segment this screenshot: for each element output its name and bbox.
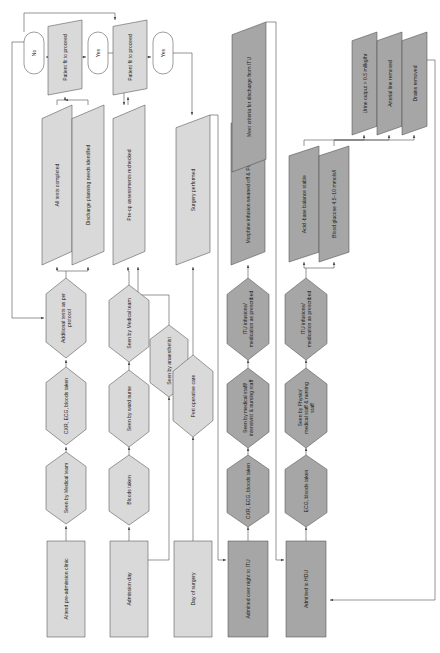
- flowchart-svg: Attend pre-admission clinicSeen by Medic…: [0, 0, 440, 653]
- node-label: Seen by ward nurse: [126, 386, 132, 431]
- flow-node[interactable]: Seen by Medical team: [46, 452, 86, 524]
- node-label: ECG, bloods taken: [303, 469, 309, 512]
- flow-node[interactable]: Attend pre-admission clinic: [47, 541, 85, 637]
- flow-node[interactable]: Seen by Physio/medical staff & nursingst…: [285, 368, 327, 448]
- flow-node[interactable]: Admitted to HDU: [286, 541, 326, 637]
- node-label: Drains removed: [412, 65, 418, 101]
- flow-node[interactable]: Seen by Medical team: [109, 285, 149, 362]
- node-layer: Attend pre-admission clinicSeen by Medic…: [24, 20, 427, 637]
- connector: [12, 42, 44, 318]
- flow-node[interactable]: Peri operative care: [173, 355, 213, 437]
- node-label: CXR, ECG, bloods taken: [63, 378, 69, 435]
- node-label: Seen by medical staff/intensivist & nurs…: [242, 379, 254, 436]
- node-label: Pre-op assessments rechecked: [126, 149, 132, 221]
- node-label: Acid -base balance stable: [301, 175, 307, 233]
- connector: [57, 97, 65, 105]
- connector: [65, 100, 88, 105]
- flow-node[interactable]: Pre-op assessments rechecked: [113, 105, 145, 265]
- flow-node[interactable]: CXR, ECG, bloods taken: [46, 367, 86, 445]
- flow-node[interactable]: ITU infusions/medication as prescribed: [227, 278, 269, 360]
- flow-node[interactable]: Admitted over night to ITU: [228, 541, 268, 637]
- flow-node[interactable]: Surgery performed: [176, 115, 210, 265]
- node-label: Admission day: [126, 572, 132, 606]
- connector: [334, 135, 389, 146]
- node-label: Yes: [95, 48, 101, 57]
- node-label: Bloods taken: [126, 475, 132, 505]
- node-label: Patient fit to proceed: [127, 34, 133, 81]
- connector: [304, 262, 306, 278]
- flow-node[interactable]: Patient fit to proceed: [48, 20, 82, 95]
- node-label: No: [31, 50, 37, 57]
- flow-node[interactable]: Urine output > 0.5 ml/kg/hr: [352, 32, 377, 135]
- node-label: Seen by Medical team: [63, 463, 69, 513]
- connector: [306, 262, 334, 268]
- flow-node[interactable]: Seen by medical staff/intensivist & nurs…: [227, 368, 269, 448]
- connector: [210, 115, 226, 560]
- node-label: All tests completed: [54, 163, 60, 206]
- flow-node[interactable]: Blood glucose 4.5–10 mmols/l: [319, 146, 349, 262]
- flow-node[interactable]: Seen by ward nurse: [109, 370, 149, 447]
- node-label: Seen by Medical team: [126, 298, 132, 348]
- node-label: Arterial line removed: [387, 60, 393, 107]
- node-label: Discharge planning needs identified: [85, 144, 91, 225]
- flow-node[interactable]: Discharge planning needs identified: [72, 105, 104, 265]
- flow-node[interactable]: Arterial line removed: [377, 32, 402, 135]
- node-label: Meet criteria for discharge from ITU: [246, 57, 252, 137]
- flow-node[interactable]: Drains removed: [402, 32, 427, 135]
- connector: [57, 267, 66, 278]
- node-label: Attend pre-admission clinic: [63, 558, 69, 619]
- flow-node[interactable]: Yes: [88, 32, 108, 74]
- node-label: CXR, ECG, bloods taken: [245, 463, 251, 520]
- node-label: Blood glucose 4.5–10 mmols/l: [331, 170, 337, 238]
- flow-node[interactable]: Yes: [153, 32, 173, 74]
- flow-node[interactable]: Additional tests as perprotocol: [46, 278, 86, 358]
- connector: [173, 53, 192, 115]
- flow-node[interactable]: Day of surgery: [174, 541, 212, 637]
- flow-node[interactable]: ITU infusions/medication as prescribed: [285, 278, 327, 360]
- flow-node[interactable]: Meet criteria for discharge from ITU: [232, 22, 266, 172]
- connector: [334, 135, 414, 140]
- connector: [330, 60, 435, 600]
- node-label: Surgery performed: [190, 169, 196, 212]
- node-label: Admitted to HDU: [303, 570, 309, 609]
- flow-node[interactable]: Bloods taken: [109, 455, 149, 525]
- node-label: Seen by anaesthetist: [166, 337, 172, 385]
- flow-node[interactable]: Admission day: [110, 541, 148, 637]
- connector: [128, 267, 129, 285]
- node-label: Admitted over night to ITU: [245, 559, 251, 618]
- flow-node[interactable]: Acid -base balance stable: [289, 146, 319, 262]
- node-label: Patient fit to proceed: [62, 34, 68, 81]
- connector: [66, 267, 88, 271]
- node-label: Day of surgery: [190, 572, 196, 606]
- flow-node[interactable]: ECG, bloods taken: [285, 455, 327, 527]
- flow-node[interactable]: CXR, ECG, bloods taken: [227, 455, 269, 527]
- node-label: Yes: [160, 48, 166, 57]
- flow-node[interactable]: All tests completed: [42, 105, 72, 265]
- node-label: Urine output > 0.5 ml/kg/hr: [362, 53, 368, 113]
- node-label: Peri operative care: [190, 374, 196, 417]
- flow-node[interactable]: Patient fit to proceed: [113, 20, 147, 95]
- connector: [148, 397, 169, 560]
- flow-node[interactable]: No: [24, 32, 44, 74]
- flowchart-canvas: Attend pre-admission clinicSeen by Medic…: [0, 0, 440, 653]
